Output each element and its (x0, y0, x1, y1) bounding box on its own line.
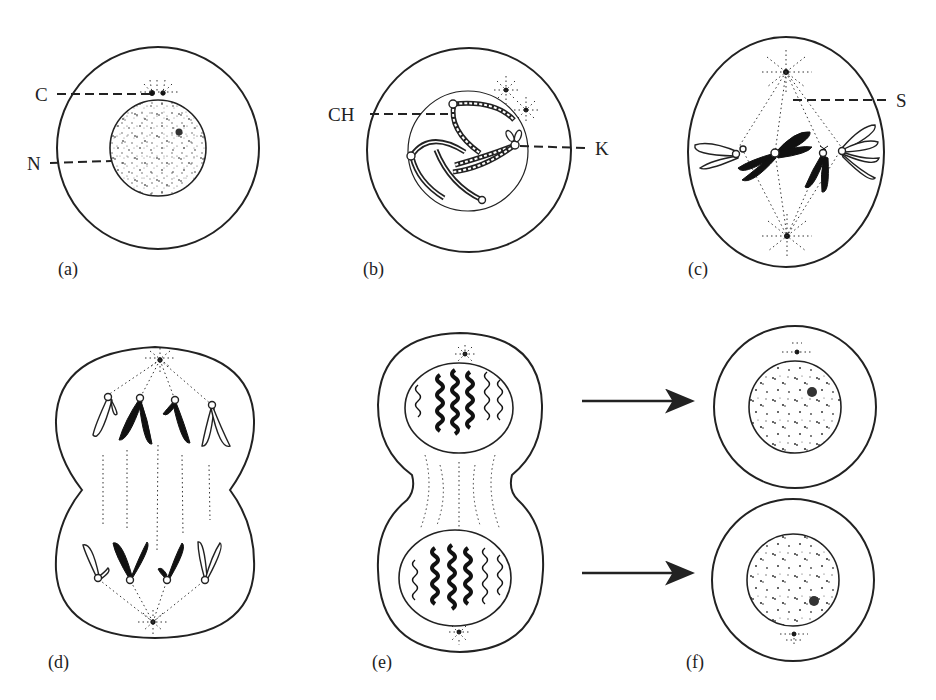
caption-b: (b) (363, 259, 384, 280)
interzonal-spindle (420, 455, 500, 530)
label-n: N (27, 153, 41, 174)
caption-f: (f) (686, 652, 704, 673)
panel-d: (d) (48, 347, 254, 673)
anaphase-chromosomes (83, 394, 230, 584)
panel-e: (e) (372, 333, 543, 673)
chromatids (407, 100, 523, 204)
caption-a: (a) (58, 259, 78, 280)
nucleolus (807, 387, 817, 397)
leader-line-k (520, 146, 585, 148)
panel-f: (f) (686, 326, 876, 673)
daughter-nucleus-top (405, 363, 513, 453)
nucleolus (809, 596, 819, 606)
metaphase-chromosomes (695, 125, 879, 192)
daughter-nucleus-bottom (399, 530, 511, 626)
panel-a: C N (a) (27, 47, 259, 280)
leader-line-n (50, 161, 111, 163)
label-s: S (896, 90, 907, 111)
mitosis-diagram: C N (a) (0, 0, 936, 700)
caption-e: (e) (372, 652, 392, 673)
caption-d: (d) (48, 652, 69, 673)
cell-membrane-pinching (56, 347, 254, 638)
spindle-poles (97, 348, 212, 634)
cell-membrane (367, 48, 571, 252)
daughter-nucleus-bottom (747, 534, 839, 626)
label-c: C (35, 84, 48, 105)
label-ch: CH (328, 104, 355, 125)
label-k: K (595, 138, 609, 159)
daughter-nucleus-top (749, 361, 841, 453)
caption-c: (c) (688, 259, 708, 280)
panel-c: S (c) (688, 37, 907, 280)
panel-b: CH K (b) (328, 48, 609, 280)
